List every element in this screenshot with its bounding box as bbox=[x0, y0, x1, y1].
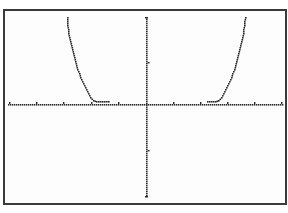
data-point bbox=[223, 93, 225, 95]
data-point bbox=[229, 81, 231, 83]
x-tick bbox=[281, 102, 282, 104]
data-point bbox=[75, 61, 77, 63]
data-point bbox=[82, 81, 84, 83]
data-point bbox=[236, 61, 238, 63]
data-point bbox=[213, 101, 215, 103]
data-point bbox=[76, 63, 78, 65]
data-point bbox=[87, 91, 89, 93]
data-point bbox=[242, 37, 244, 39]
data-point bbox=[80, 75, 82, 77]
data-point bbox=[218, 100, 220, 102]
x-tick bbox=[200, 102, 201, 104]
data-point bbox=[243, 29, 245, 31]
data-point bbox=[104, 101, 106, 103]
data-point bbox=[74, 55, 76, 57]
data-point bbox=[245, 17, 247, 19]
data-point bbox=[222, 95, 224, 97]
data-point bbox=[84, 85, 86, 87]
data-point bbox=[221, 97, 223, 99]
data-point bbox=[240, 45, 242, 47]
data-point bbox=[67, 21, 69, 23]
data-point bbox=[235, 65, 237, 67]
data-point bbox=[243, 35, 245, 37]
data-point bbox=[79, 73, 81, 75]
data-point bbox=[106, 101, 108, 103]
data-point bbox=[243, 33, 245, 35]
data-point bbox=[242, 39, 244, 41]
data-point bbox=[67, 23, 69, 25]
data-point bbox=[207, 101, 209, 103]
data-point bbox=[230, 79, 232, 81]
data-point bbox=[92, 99, 94, 101]
data-point bbox=[239, 49, 241, 51]
data-point bbox=[68, 27, 70, 29]
data-point bbox=[224, 91, 226, 93]
data-point bbox=[244, 25, 246, 27]
data-point bbox=[231, 77, 233, 79]
data-point bbox=[71, 45, 73, 47]
data-series bbox=[67, 17, 247, 103]
y-tick bbox=[148, 62, 150, 63]
data-point bbox=[70, 39, 72, 41]
data-point bbox=[243, 31, 245, 33]
data-point bbox=[211, 101, 213, 103]
x-tick bbox=[63, 102, 64, 104]
plot-area bbox=[0, 0, 288, 213]
x-tick bbox=[173, 102, 174, 104]
data-point bbox=[95, 101, 97, 103]
data-point bbox=[93, 100, 95, 102]
x-tick bbox=[91, 102, 92, 104]
data-point bbox=[244, 21, 246, 23]
data-point bbox=[80, 77, 82, 79]
data-point bbox=[238, 55, 240, 57]
data-point bbox=[77, 67, 79, 69]
data-point bbox=[89, 95, 91, 97]
data-point bbox=[217, 101, 219, 103]
data-point bbox=[68, 29, 70, 31]
data-point bbox=[73, 53, 75, 55]
data-point bbox=[76, 65, 78, 67]
data-point bbox=[244, 27, 246, 29]
data-point bbox=[225, 89, 227, 91]
x-tick bbox=[36, 102, 37, 104]
data-point bbox=[235, 67, 237, 69]
data-point bbox=[240, 47, 242, 49]
data-point bbox=[70, 41, 72, 43]
data-point bbox=[73, 51, 75, 53]
y-axis-top-marker bbox=[145, 17, 148, 19]
data-point bbox=[234, 69, 236, 71]
data-point bbox=[74, 57, 76, 59]
data-point bbox=[72, 47, 74, 49]
y-axis-bottom-marker bbox=[145, 196, 148, 198]
data-point bbox=[220, 99, 222, 101]
data-point bbox=[85, 87, 87, 89]
data-point bbox=[244, 23, 246, 25]
data-point bbox=[72, 49, 74, 51]
data-point bbox=[241, 43, 243, 45]
data-point bbox=[232, 75, 234, 77]
data-point bbox=[233, 71, 235, 73]
data-point bbox=[102, 101, 104, 103]
data-point bbox=[245, 19, 247, 21]
data-point bbox=[75, 59, 77, 61]
data-point bbox=[100, 101, 102, 103]
data-point bbox=[239, 51, 241, 53]
data-point bbox=[108, 101, 110, 103]
data-point bbox=[215, 101, 217, 103]
x-tick bbox=[9, 102, 10, 104]
data-point bbox=[226, 87, 228, 89]
data-point bbox=[67, 19, 69, 21]
data-point bbox=[69, 37, 71, 39]
data-point bbox=[81, 79, 83, 81]
data-point bbox=[236, 63, 238, 65]
x-tick bbox=[227, 102, 228, 104]
data-point bbox=[237, 57, 239, 59]
data-point bbox=[83, 83, 85, 85]
y-tick bbox=[148, 150, 150, 151]
data-point bbox=[86, 89, 88, 91]
data-point bbox=[68, 31, 70, 33]
x-tick bbox=[254, 102, 255, 104]
data-point bbox=[90, 97, 92, 99]
data-point bbox=[67, 25, 69, 27]
data-point bbox=[96, 101, 98, 103]
